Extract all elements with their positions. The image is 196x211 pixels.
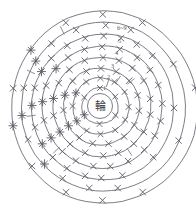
round-label-1: 1 bbox=[103, 84, 106, 91]
stitch-plus-r5-16 bbox=[39, 97, 47, 106]
stitch-x-r4-7 bbox=[131, 141, 137, 147]
round-label-3: 3 bbox=[111, 62, 114, 69]
stitch-x-r4-16 bbox=[67, 67, 73, 73]
stitch-x-r5-7 bbox=[152, 133, 158, 139]
stitch-plus-r8-10 bbox=[9, 121, 17, 130]
stitch-x-r8-8 bbox=[63, 189, 69, 195]
stitch-x-r7-18 bbox=[73, 27, 79, 33]
stitch-x-r8-13 bbox=[63, 20, 69, 26]
stitch-plus-r7-12 bbox=[40, 160, 48, 169]
round-label-2: 2 bbox=[107, 73, 110, 80]
stitch-plus-r6-20 bbox=[37, 67, 45, 76]
round-label-6-9: 6~9 bbox=[117, 24, 127, 31]
stitch-x-r5-13 bbox=[59, 148, 65, 154]
stitch-plus-r3-12 bbox=[61, 91, 69, 100]
stitch-plus-r5-18 bbox=[52, 64, 60, 73]
stitch-x-r1-3 bbox=[97, 121, 102, 126]
stitch-x-r6-23 bbox=[82, 35, 88, 41]
stitch-x-r5-8 bbox=[141, 147, 147, 153]
stitch-x-r5-19 bbox=[65, 55, 71, 61]
stitch-x-r3-13 bbox=[70, 78, 76, 84]
stitch-x-r2-2 bbox=[122, 89, 127, 94]
stitch-plus-r1-4 bbox=[80, 111, 88, 119]
stitch-plus-r2-8 bbox=[73, 117, 81, 125]
stitch-x-r6-12 bbox=[98, 175, 104, 181]
round-label-4: 4 bbox=[115, 49, 118, 56]
stitch-x-r8-0 bbox=[100, 11, 106, 17]
stitch-x-r4-9 bbox=[100, 153, 106, 159]
round-join-spoke-5 bbox=[127, 148, 132, 156]
stitch-plus-r4-12 bbox=[56, 128, 64, 137]
stitch-plus-r4-14 bbox=[49, 94, 57, 103]
stitch-plus-r6-18 bbox=[28, 101, 36, 110]
stitch-x-r3-9 bbox=[77, 135, 83, 141]
stitch-x-r8-7 bbox=[100, 197, 106, 203]
stitch-x-r4-2 bbox=[129, 65, 135, 71]
stitch-x-r6-21 bbox=[48, 55, 54, 61]
stitch-x-r5-4 bbox=[155, 82, 161, 88]
round-join-spoke-9 bbox=[60, 26, 64, 34]
stitch-x-r6-15 bbox=[50, 154, 56, 160]
stitch-x-r2-9 bbox=[70, 103, 75, 108]
stitch-x-r7-3 bbox=[170, 61, 176, 67]
stitch-x-r4-11 bbox=[67, 141, 73, 147]
stitch-x-r5-9 bbox=[125, 158, 131, 164]
stitch-plus-r7-16 bbox=[32, 57, 40, 66]
stitch-plus-r8-12 bbox=[27, 46, 35, 55]
stitch-x-r2-5 bbox=[113, 127, 118, 132]
stitch-x-r3-5 bbox=[132, 122, 138, 128]
stitch-x-r6-6 bbox=[171, 105, 177, 111]
stitch-x-r5-0 bbox=[99, 44, 105, 50]
center-ring-glyph: 輪 bbox=[95, 99, 106, 113]
stitch-x-r1-0 bbox=[97, 85, 102, 90]
stitch-x-r7-15 bbox=[21, 85, 27, 91]
stitch-x-r2-4 bbox=[122, 117, 127, 122]
stitch-x-r8-1 bbox=[139, 20, 145, 26]
stitch-x-r5-11 bbox=[91, 163, 97, 169]
stitch-x-r5-15 bbox=[41, 117, 47, 123]
stitch-plus-r2-10 bbox=[72, 89, 80, 97]
stitch-plus-r5-14 bbox=[47, 134, 55, 143]
stitch-x-r2-3 bbox=[126, 104, 131, 109]
stitch-x-r3-6 bbox=[121, 134, 127, 140]
round-label-5: 5 bbox=[118, 37, 121, 44]
round-join-spoke-7 bbox=[27, 115, 36, 116]
stitch-x-r7-1 bbox=[128, 27, 134, 33]
crochet-chart-container: 輪 123456~9 bbox=[0, 0, 196, 211]
stitch-x-r6-13 bbox=[82, 173, 88, 179]
stitch-plus-r3-10 bbox=[64, 121, 72, 130]
stitch-plus-r7-14 bbox=[18, 111, 26, 120]
stitch-plus-r6-16 bbox=[38, 140, 46, 149]
crochet-round-diagram: 輪 123456~9 bbox=[0, 0, 196, 211]
round-join-spoke-6 bbox=[53, 147, 59, 153]
stitch-x-r7-0 bbox=[103, 22, 109, 28]
